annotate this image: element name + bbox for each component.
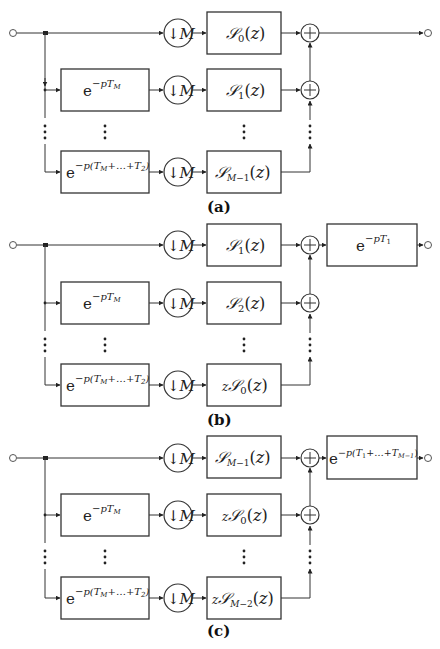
svg-text:↓M: ↓M <box>167 82 196 100</box>
input-port-icon <box>10 30 17 37</box>
sum-c1 <box>301 506 319 524</box>
downsampler-a1: ↓M <box>164 76 196 104</box>
downsampler-c1: ↓M <box>164 501 196 529</box>
sum-b0 <box>301 236 319 254</box>
sum-c0 <box>301 449 319 467</box>
svg-text:e: e <box>83 507 92 525</box>
output-port-icon <box>425 30 432 37</box>
svg-text:↓M: ↓M <box>167 164 196 182</box>
sum-b1 <box>301 294 319 312</box>
svg-text:e: e <box>329 450 338 468</box>
downsampler-b0: ↓M <box>164 231 196 259</box>
svg-text:e: e <box>83 82 92 100</box>
delay-box-a1 <box>61 69 149 111</box>
svg-text:e: e <box>356 237 365 255</box>
sum-a0 <box>301 24 319 42</box>
sum-a1 <box>301 81 319 99</box>
svg-text:e: e <box>66 164 75 182</box>
downsampler-c0: ↓M <box>164 444 196 472</box>
output-delay-box-b <box>327 224 417 266</box>
downsampler-a2: ↓M <box>164 158 196 186</box>
downsampler-b2: ↓M <box>164 371 196 399</box>
output-port-icon <box>425 242 432 249</box>
downsampler-c2: ↓M <box>164 584 196 612</box>
input-port-icon <box>10 455 17 462</box>
svg-text:𝒮1(z): 𝒮1(z) <box>226 81 265 101</box>
svg-text:𝒮2(z): 𝒮2(z) <box>226 294 265 314</box>
svg-text:e: e <box>66 590 75 608</box>
caption-c: (c) <box>207 622 230 640</box>
downsampler-b1: ↓M <box>164 289 196 317</box>
svg-text:e: e <box>83 295 92 313</box>
svg-text:𝒮1(z): 𝒮1(z) <box>226 236 265 256</box>
svg-text:↓M: ↓M <box>167 450 196 468</box>
output-port-icon <box>425 455 432 462</box>
block-diagram: e −pTM e −p(TM+…+T2) ↓M ↓M ↓M 𝒮0(z) 𝒮1(z… <box>0 0 440 649</box>
panel-a: e −pTM e −p(TM+…+T2) ↓M ↓M ↓M 𝒮0(z) 𝒮1(z… <box>10 12 432 216</box>
svg-text:e: e <box>66 377 75 395</box>
delay-box-b1 <box>61 282 149 324</box>
panel-b: e −pTM e −p(TM+…+T2) ↓M ↓M ↓M 𝒮1(z) 𝒮2(z… <box>10 224 432 429</box>
delay-box-c1 <box>61 494 149 536</box>
svg-text:↓M: ↓M <box>167 590 196 608</box>
downsampler-a0: ↓M <box>164 19 196 47</box>
caption-b: (b) <box>207 411 232 429</box>
input-port-icon <box>10 242 17 249</box>
panel-c: e −pTM e −p(TM+…+T2) ↓M ↓M ↓M 𝒮M−1(z) z𝒮… <box>10 436 432 640</box>
svg-text:↓M: ↓M <box>167 237 196 255</box>
svg-text:𝒮0(z): 𝒮0(z) <box>226 24 265 44</box>
svg-text:↓M: ↓M <box>167 377 196 395</box>
caption-a: (a) <box>207 198 231 216</box>
svg-text:↓M: ↓M <box>167 507 196 525</box>
svg-text:↓M: ↓M <box>167 295 196 313</box>
svg-text:↓M: ↓M <box>167 25 196 43</box>
